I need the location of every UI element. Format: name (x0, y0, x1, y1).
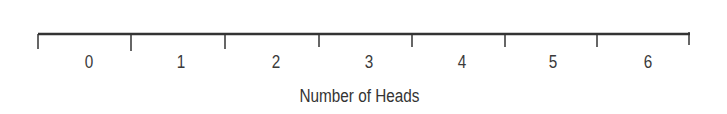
tick-label-3: 3 (352, 52, 386, 73)
tick-label-0: 0 (72, 52, 106, 73)
tick-label-6: 6 (631, 52, 665, 73)
tick-label-4: 4 (445, 52, 479, 73)
tick-label-5: 5 (536, 52, 570, 73)
tick-label-1: 1 (164, 52, 198, 73)
tick-label-2: 2 (259, 52, 293, 73)
x-axis-title: Number of Heads (51, 86, 669, 107)
